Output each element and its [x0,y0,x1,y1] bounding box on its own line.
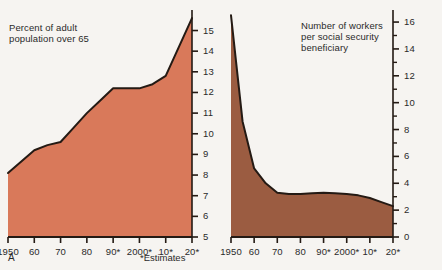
y-tick-label: 6 [404,150,409,161]
y-tick-label: 11 [203,107,213,118]
y-tick-label: 5 [203,231,208,242]
y-tick-label: 9 [203,148,208,159]
chart-caption-b: Number of workers per social security be… [301,20,383,54]
y-tick-label: 15 [203,25,214,36]
y-tick-label: 2 [404,204,409,215]
y-tick-label: 10 [203,128,214,139]
area-fill [8,18,192,237]
y-tick-label: 12 [404,70,415,81]
y-tick-label: 4 [404,177,409,188]
x-tick-label: 60 [249,246,260,257]
x-tick-label: 1950 [0,246,19,257]
x-tick-label: 90* [106,246,121,257]
x-tick-label: 2000* [127,246,152,257]
x-tick-label: 20* [185,246,200,257]
y-tick-label: 10 [404,97,415,108]
x-tick-label: 20* [386,246,401,257]
y-tick-label: 0 [404,231,409,242]
figure-root: Percent of adult population over 65 A *E… [0,0,442,270]
y-tick-label: 7 [203,190,208,201]
y-tick-label: 8 [203,169,208,180]
x-tick-label: 90* [316,246,331,257]
chart-panel-a: Percent of adult population over 65 A *E… [0,0,221,270]
y-tick-label: 12 [203,86,214,97]
y-tick-label: 8 [404,124,409,135]
x-tick-label: 70 [272,246,283,257]
y-tick-label: 14 [203,45,214,56]
y-tick-label: 13 [203,66,214,77]
chart-caption-a: Percent of adult population over 65 [9,22,89,44]
x-tick-label: 60 [29,246,40,257]
x-tick-label: 1950 [220,246,242,257]
x-tick-label: 80 [81,246,92,257]
y-tick-label: 16 [404,16,415,27]
x-tick-label: 10* [363,246,378,257]
chart-panel-b: Number of workers per social security be… [221,0,442,270]
x-tick-label: 80 [295,246,306,257]
y-tick-label: 6 [203,210,208,221]
x-tick-label: 70 [55,246,66,257]
x-tick-label: 2000* [334,246,359,257]
x-tick-label: 10* [158,246,173,257]
y-tick-label: 14 [404,43,415,54]
